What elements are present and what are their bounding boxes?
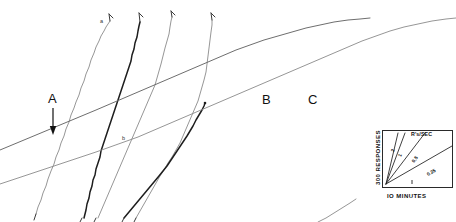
pen-reset-mark-3 xyxy=(171,11,175,17)
cumulative-record-plot: a b A B C R's/SEC 2 1 0.5 0.25 xyxy=(0,0,456,222)
label-group-c: C xyxy=(308,92,318,107)
record-curve-b-marked xyxy=(124,103,205,218)
inset-title: R's/SEC xyxy=(411,131,432,137)
pen-reset-mark-2 xyxy=(139,13,143,22)
curve-marker-b: b xyxy=(122,135,125,141)
record-curve-middle xyxy=(136,20,212,218)
figure-canvas: a b A B C R's/SEC 2 1 0.5 0.25 xyxy=(0,0,456,222)
inset-x-axis-label: IO MINUTES xyxy=(387,193,427,199)
curve-marker-a: a xyxy=(100,18,104,24)
inset-slope-key: R's/SEC 2 1 0.5 0.25 300 RESPONSES IO MI… xyxy=(375,130,453,199)
inset-y-axis-label: 300 RESPONSES xyxy=(375,130,381,185)
label-group-b: B xyxy=(262,92,271,107)
record-end-dot xyxy=(204,102,207,105)
record-curve-a2 xyxy=(84,22,140,218)
pen-reset-mark-4 xyxy=(211,13,215,20)
record-curve-stub xyxy=(318,199,356,222)
record-curve-a1 xyxy=(36,21,110,214)
label-group-a: A xyxy=(48,91,57,106)
pen-reset-mark-1 xyxy=(109,14,113,21)
pointer-arrow-a xyxy=(50,108,56,135)
